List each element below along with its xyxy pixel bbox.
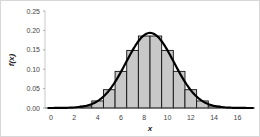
histogram-bar (185, 90, 197, 108)
x-tick-label: 0 (49, 114, 53, 121)
x-tick-label: 4 (96, 114, 100, 121)
y-axis-label: f(x) (7, 53, 16, 66)
x-tick-label: 10 (164, 114, 172, 121)
y-tick-label: 0.25 (26, 8, 40, 15)
histogram-bar (115, 71, 127, 108)
histogram-bar (138, 36, 150, 108)
chart-plot: 0.000.050.100.150.200.250246810121416xf(… (0, 0, 260, 137)
histogram-bar (150, 36, 162, 108)
x-tick-label: 14 (210, 114, 218, 121)
histogram-bar (173, 71, 185, 108)
y-tick-label: 0.00 (26, 105, 40, 112)
x-axis-label: x (147, 124, 153, 133)
x-tick-label: 8 (142, 114, 146, 121)
y-tick-label: 0.10 (26, 66, 40, 73)
x-tick-label: 2 (72, 114, 76, 121)
y-tick-label: 0.15 (26, 46, 40, 53)
y-tick-label: 0.05 (26, 85, 40, 92)
x-tick-label: 12 (187, 114, 195, 121)
x-tick-label: 6 (119, 114, 123, 121)
x-tick-label: 16 (234, 114, 242, 121)
y-tick-label: 0.20 (26, 27, 40, 34)
histogram-bar (103, 90, 115, 108)
